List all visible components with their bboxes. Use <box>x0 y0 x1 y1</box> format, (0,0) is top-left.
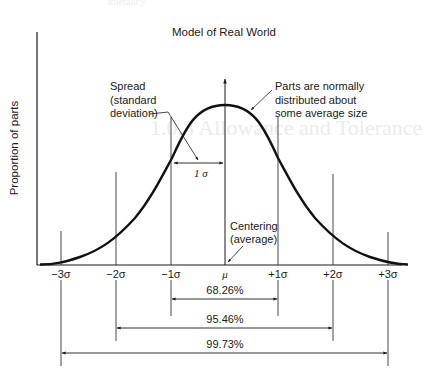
centering-label-line2: (average) <box>230 233 277 246</box>
spread-label-line2: (standard <box>110 94 156 107</box>
one-sigma-label: 1 σ <box>194 167 208 180</box>
tick-label-plus2: +2σ <box>323 268 342 280</box>
tick-label-minus3: −3σ <box>51 268 70 280</box>
centering-label-line1: Centering <box>230 220 278 233</box>
tick-label-plus3: +3σ <box>378 268 397 280</box>
diagram-title: Model of Real World <box>172 26 276 39</box>
centering-leader-line <box>228 246 243 262</box>
parts-label-line3: some average size <box>275 107 367 120</box>
parts-label-line2: distributed about <box>275 94 356 107</box>
parts-leader-line <box>251 90 272 110</box>
spread-label-line3: deviation) <box>110 107 158 120</box>
spread-label-line1: Spread <box>110 80 145 93</box>
tick-label-mean: μ <box>222 268 228 280</box>
range-label-68: 68.26% <box>206 284 243 296</box>
range-label-95: 95.46% <box>206 313 243 325</box>
tick-label-plus1: +1σ <box>268 268 287 280</box>
range-label-99: 99.73% <box>206 338 243 350</box>
normal-distribution-diagram: tolerancy. 1.0.3 Allowance and Tolerance <box>0 0 446 387</box>
diagram-graphics <box>0 0 446 387</box>
bell-curve <box>40 105 408 265</box>
tick-label-minus1: −1σ <box>161 268 180 280</box>
parts-label-line1: Parts are normally <box>275 80 364 93</box>
y-axis-label: Proportion of parts <box>8 101 20 196</box>
tick-label-minus2: −2σ <box>106 268 125 280</box>
